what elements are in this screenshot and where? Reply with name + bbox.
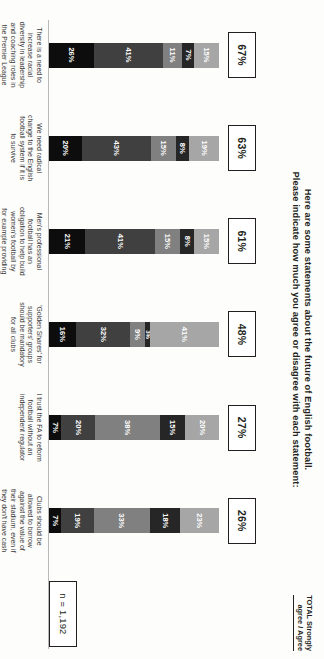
rotated-chart-stage: TOTAL Strongly agree / Agree Here are so… [0,0,324,659]
chart-title: Here are some statements about the futur… [289,6,314,653]
bar-segment-d: 38% [95,415,160,440]
total-agree-box: 48% [228,311,256,357]
total-header-line1: TOTAL Strongly [305,595,314,651]
category-labels: There is a need to increase racial diver… [0,16,48,653]
bar-segment-sa: 16% [49,322,76,347]
bar-segment-a: 43% [82,136,152,161]
bar-segment-sd: 18% [150,508,181,533]
bar-segment-dk: 20% [185,415,219,440]
category-label: I trust the FA to reform football withou… [0,393,43,463]
base-column: n = 1,192 [49,579,77,649]
bar-column: 67%15%7%11%41%26% [49,20,256,90]
bar-segment-sd: 15% [160,415,186,440]
bar-segment-sa: 21% [49,229,85,254]
total-agree-box: 26% [228,498,256,544]
bar-segment-sd: 8% [180,229,194,254]
category-label-spacer [0,579,43,649]
category-label: Clubs should be allowed to borrow agains… [0,486,43,556]
base-size-box: n = 1,192 [49,581,77,647]
bar-segment-a: 19% [61,508,93,533]
bar-segment-sd: 3% [145,322,150,347]
bar-segment-a: 32% [76,322,130,347]
bar-segment-sd: 7% [182,43,194,68]
bar-segment-d: 15% [151,136,175,161]
stacked-bar: 15%7%11%41%26% [49,43,219,68]
bar-segment-a: 41% [94,43,164,68]
chart-container: TOTAL Strongly agree / Agree Here are so… [0,0,324,659]
bar-segment-dk: 23% [180,508,219,533]
bar-segment-a: 41% [85,229,155,254]
bar-column: 48%41%3%9%32%16% [49,299,256,369]
chart-title-line2: Please indicate how much you agree or di… [289,6,301,653]
plot-area: 67%15%7%11%41%26%63%19%8%15%43%20%61%15%… [49,6,285,653]
bar-segment-d: 9% [130,322,145,347]
category-label: There is a need to increase racial diver… [0,20,43,90]
bar-segment-sa: 7% [49,415,61,440]
bar-segment-dk: 19% [189,136,220,161]
stacked-bar: 41%3%9%32%16% [49,322,219,347]
total-agree-box: 61% [228,218,256,264]
bar-segment-dk: 15% [194,229,220,254]
bar-segment-sd: 8% [176,136,189,161]
total-header-line2: agree / Agree [296,595,305,651]
chart-title-line1: Here are some statements about the futur… [302,6,314,653]
bar-column: 26%23%18%33%19%7% [49,486,256,556]
bar-column: 63%19%8%15%43%20% [49,113,256,183]
bar-column: 61%15%8%15%41%21% [49,206,256,276]
stacked-bar: 20%15%38%20%7% [49,415,219,440]
total-agree-box: 27% [228,405,256,451]
stacked-bar: 23%18%33%19%7% [49,508,219,533]
total-agree-box: 63% [228,125,256,171]
bar-column: 27%20%15%38%20%7% [49,393,256,463]
total-agree-box: 67% [228,32,256,78]
bar-columns: 67%15%7%11%41%26%63%19%8%15%43%20%61%15%… [49,16,285,653]
bar-segment-sa: 20% [49,136,81,161]
stacked-bar: 15%8%15%41%21% [49,229,219,254]
bar-segment-sa: 26% [49,43,93,68]
stacked-bar: 19%8%15%43%20% [49,136,219,161]
category-label: We need radical change to the English fo… [0,113,43,183]
bar-segment-d: 15% [155,229,181,254]
category-label: 'Golden Shares' for supporters' groups s… [0,299,43,369]
bar-segment-dk: 15% [194,43,220,68]
bar-segment-d: 33% [94,508,150,533]
bar-segment-dk: 41% [150,322,219,347]
category-label: Men's professional football has an oblig… [0,206,43,276]
bar-segment-d: 11% [163,43,182,68]
bar-segment-a: 20% [61,415,95,440]
total-column-header: TOTAL Strongly agree / Agree [294,595,315,651]
bar-segment-sa: 7% [49,508,61,533]
